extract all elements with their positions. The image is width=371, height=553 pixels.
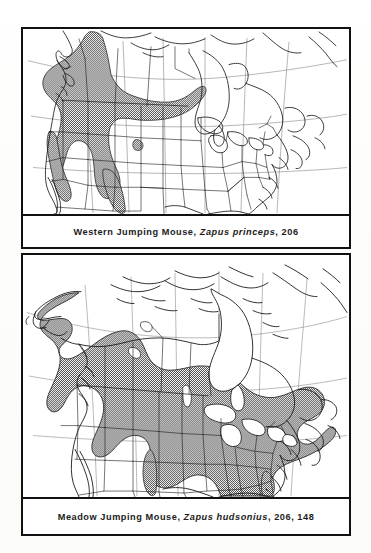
caption-scientific-name-panel-1: Zapus princeps <box>200 227 276 237</box>
caption-comma-2-panel-2: , <box>291 512 294 522</box>
caption-plate-ref-panel-2: 148 <box>297 512 314 522</box>
caption-common-name-panel-2: Meadow Jumping Mouse, <box>58 512 181 522</box>
figure-panel-western-jumping-mouse: Western Jumping Mouse, Zapus princeps, 2… <box>21 27 351 249</box>
map-svg-panel-2 <box>23 255 349 497</box>
caption-scientific-name-panel-2: Zapus hudsonius <box>184 512 268 522</box>
caption-page-ref-panel-2: 206 <box>274 512 291 522</box>
caption-comma-1-panel-2: , <box>268 512 271 522</box>
range-map-meadow-jumping-mouse <box>23 255 349 499</box>
caption-page-ref-panel-1: 206 <box>282 227 299 237</box>
figure-panel-meadow-jumping-mouse: Meadow Jumping Mouse, Zapus hudsonius, 2… <box>21 253 351 536</box>
caption-text-panel-2: Meadow Jumping Mouse, Zapus hudsonius, 2… <box>58 512 315 522</box>
caption-common-name-panel-1: Western Jumping Mouse, <box>73 227 196 237</box>
caption-bar-panel-1: Western Jumping Mouse, Zapus princeps, 2… <box>23 216 349 247</box>
range-map-western-jumping-mouse <box>23 29 349 216</box>
map-svg-panel-1 <box>23 29 349 214</box>
caption-comma-panel-1: , <box>275 227 278 237</box>
caption-text-panel-1: Western Jumping Mouse, Zapus princeps, 2… <box>73 227 298 237</box>
caption-bar-panel-2: Meadow Jumping Mouse, Zapus hudsonius, 2… <box>23 499 349 534</box>
